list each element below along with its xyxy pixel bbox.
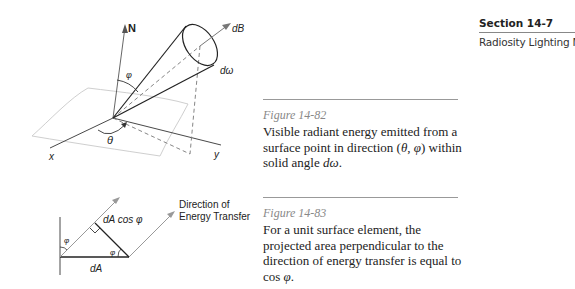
caption-phi: φ <box>284 269 291 284</box>
ray-arrowhead-icon <box>167 211 175 218</box>
caption-divider <box>263 99 458 100</box>
beam-arrow <box>200 25 228 46</box>
label-y: y <box>213 149 220 160</box>
label-db: dB <box>232 23 245 34</box>
label-phi: φ <box>126 70 132 80</box>
right-angle-marker <box>90 228 100 233</box>
figure-14-82-caption: Figure 14-82 Visible radiant energy emit… <box>263 99 463 171</box>
figure-caption-text: For a unit surface element, the projecte… <box>263 222 463 284</box>
caption-domega: dω <box>323 155 339 170</box>
cone-cap <box>175 18 224 72</box>
section-title: Section 14-7 <box>479 17 575 33</box>
label-n: N <box>128 22 136 34</box>
caption-end: . <box>291 269 294 284</box>
caption-divider <box>263 197 458 198</box>
figure-14-83-caption: Figure 14-83 For a unit surface element,… <box>263 197 463 284</box>
cone-edge-top <box>113 26 186 118</box>
figure-caption-text: Visible radiant energy emitted from a su… <box>263 124 463 171</box>
cone-axis <box>113 46 200 118</box>
label-domega: dω <box>220 65 234 76</box>
label-x: x <box>48 151 55 162</box>
section-subtitle: Radiosity Lighting Model <box>479 36 575 48</box>
label-phi-left: φ <box>64 236 69 245</box>
caption-phi: φ <box>414 140 421 155</box>
label-phi-right: φ <box>110 248 115 257</box>
figure-14-83-diagram: φ φ dA cos φ dA Direction of Energy Tran… <box>0 195 270 289</box>
caption-end: . <box>339 155 342 170</box>
angle-arc-left <box>60 247 67 250</box>
theta-arc <box>98 124 126 134</box>
label-direction-1: Direction of <box>179 199 230 210</box>
angle-arc-right <box>118 249 121 257</box>
label-dacosphi: dA cos φ <box>103 214 143 225</box>
label-theta: θ <box>107 134 113 146</box>
figure-label: Figure 14-82 <box>263 108 463 123</box>
figure-14-82-diagram: N dB dω φ θ x y <box>0 0 260 200</box>
figure-label: Figure 14-83 <box>263 206 463 221</box>
label-da: dA <box>90 263 103 274</box>
ray-arrowhead-icon <box>112 197 120 204</box>
theta-arrowhead-icon <box>121 122 127 128</box>
label-direction-2: Energy Transfer <box>179 211 251 222</box>
section-header: Section 14-7 Radiosity Lighting Model <box>479 17 575 48</box>
